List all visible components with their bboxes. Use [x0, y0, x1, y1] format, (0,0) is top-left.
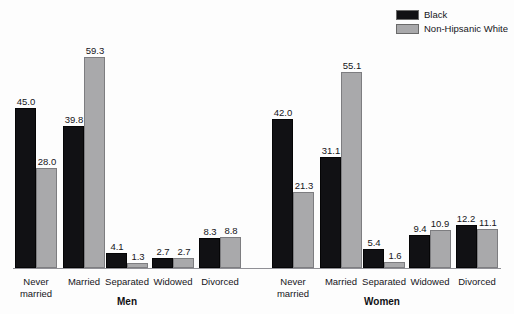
xtick-men-never-married: Never married — [11, 276, 61, 299]
xtick-women-never-married-line1: Never — [280, 276, 305, 287]
bar-women-separated-black — [363, 249, 384, 268]
xtick-women-never-married-line2: married — [277, 288, 309, 299]
value-men-widowed-white: 2.7 — [171, 246, 197, 257]
xtick-women-widowed: Widowed — [404, 276, 456, 288]
bar-women-never-married-black — [272, 119, 293, 268]
bar-men-never-married-black — [15, 108, 36, 268]
bar-women-never-married-white — [293, 192, 314, 268]
xtick-men-never-married-line2: married — [20, 288, 52, 299]
value-men-never-married-black: 45.0 — [13, 96, 39, 107]
bar-women-divorced-black — [456, 225, 477, 268]
bar-men-divorced-black — [199, 238, 220, 268]
bar-women-married-white — [341, 72, 362, 268]
bar-men-married-white — [84, 57, 105, 268]
bar-women-married-black — [320, 157, 341, 268]
value-men-married-white: 59.3 — [82, 45, 108, 56]
bar-women-widowed-white — [430, 230, 451, 268]
bar-women-divorced-white — [477, 229, 498, 268]
bar-men-divorced-white — [220, 237, 241, 268]
bar-women-widowed-black — [409, 235, 430, 268]
panel-title-women: Women — [352, 296, 412, 307]
value-men-divorced-white: 8.8 — [218, 225, 244, 236]
bar-men-separated-black — [106, 253, 127, 268]
bar-men-widowed-black — [152, 258, 173, 268]
bar-men-never-married-white — [36, 168, 57, 268]
xtick-women-divorced: Divorced — [451, 276, 503, 288]
value-women-separated-white: 1.6 — [382, 250, 408, 261]
value-women-divorced-white: 11.1 — [475, 217, 501, 228]
value-women-never-married-black: 42.0 — [270, 107, 296, 118]
value-women-married-white: 55.1 — [339, 60, 365, 71]
xtick-women-never-married: Never married — [268, 276, 318, 299]
bar-men-widowed-white — [173, 258, 194, 268]
value-men-never-married-white: 28.0 — [34, 156, 60, 167]
xtick-men-divorced: Divorced — [194, 276, 246, 288]
xtick-men-widowed: Widowed — [147, 276, 199, 288]
x-axis-baseline — [13, 268, 501, 269]
value-women-widowed-white: 10.9 — [427, 218, 453, 229]
xtick-men-never-married-line1: Never — [23, 276, 48, 287]
bar-men-separated-white — [127, 263, 148, 268]
bar-women-separated-white — [384, 262, 405, 268]
value-women-separated-black: 5.4 — [361, 237, 387, 248]
plot-area: 45.0 28.0 39.8 59.3 4.1 1.3 2.7 2.7 8.3 … — [0, 0, 514, 314]
panel-title-men: Men — [99, 296, 155, 307]
value-men-separated-white: 1.3 — [125, 251, 151, 262]
value-women-never-married-white: 21.3 — [291, 180, 317, 191]
chart-page: Black Non-Hipsanic White 45.0 28.0 39.8 … — [0, 0, 514, 314]
bar-men-married-black — [63, 126, 84, 268]
